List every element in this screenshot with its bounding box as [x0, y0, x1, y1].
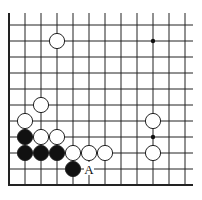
black-stone: [17, 145, 32, 160]
white-stone: [33, 97, 48, 112]
black-stone: [33, 145, 48, 160]
star-point-icon: [151, 135, 155, 139]
white-stone: [49, 129, 64, 144]
white-stone: [81, 145, 96, 160]
star-point-icon: [151, 39, 155, 43]
white-stone: [33, 129, 48, 144]
white-stone: [17, 113, 32, 128]
black-stone: [17, 129, 32, 144]
white-stone: [145, 145, 160, 160]
white-stone: [97, 145, 112, 160]
black-stone: [49, 145, 64, 160]
move-label-text: A: [84, 162, 94, 177]
white-stone: [65, 145, 80, 160]
black-stone: [65, 161, 80, 176]
white-stone: [145, 113, 160, 128]
white-stone: [49, 33, 64, 48]
move-labels: A: [84, 162, 94, 177]
go-board-diagram: A: [0, 0, 202, 200]
